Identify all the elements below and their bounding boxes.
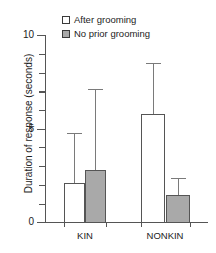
errorbar-stem-nonkin-after-grooming [153, 63, 154, 114]
errorbar-stem-nonkin-no-prior-grooming [178, 178, 179, 195]
y-tick-4 [39, 147, 45, 148]
x-tick-label-nonkin: NONKIN [147, 230, 184, 241]
legend-item-no-prior-grooming: No prior grooming [62, 27, 150, 40]
y-tick-1 [39, 204, 45, 205]
x-tick-kin-left [64, 222, 65, 227]
x-tick-nonkin-right [190, 222, 191, 227]
chart-legend: After grooming No prior grooming [62, 13, 150, 41]
errorbar-cap-kin-after-grooming [67, 133, 82, 134]
x-tick-label-kin: KIN [77, 230, 93, 241]
errorbar-cap-kin-no-prior-grooming [88, 89, 103, 90]
legend-label-no-prior-grooming: No prior grooming [74, 28, 150, 39]
bar-chart-figure: After grooming No prior grooming Duratio… [0, 0, 216, 253]
errorbar-stem-kin-no-prior-grooming [95, 89, 96, 169]
y-tick-9 [39, 54, 45, 55]
y-tick-label-5: 5 [8, 123, 34, 134]
y-axis-line [45, 35, 46, 223]
errorbar-cap-nonkin-no-prior-grooming [171, 178, 186, 179]
filled-square-icon [62, 30, 70, 38]
y-tick-8 [39, 73, 45, 74]
x-tick-nonkin-left [141, 222, 142, 227]
y-tick-3 [39, 166, 45, 167]
y-tick-7 [39, 91, 45, 92]
y-tick-0 [37, 222, 45, 223]
legend-item-after-grooming: After grooming [62, 13, 150, 26]
bar-nonkin-after-grooming [141, 114, 165, 224]
y-tick-label-10: 10 [8, 29, 34, 40]
bar-nonkin-no-prior-grooming [166, 195, 190, 223]
open-square-icon [62, 16, 70, 24]
errorbar-cap-nonkin-after-grooming [146, 63, 161, 64]
errorbar-stem-kin-after-grooming [74, 133, 75, 183]
y-tick-10 [37, 35, 45, 36]
x-tick-kin-right [106, 222, 107, 227]
bar-kin-after-grooming [64, 183, 85, 223]
bar-kin-no-prior-grooming [85, 170, 106, 223]
y-tick-5 [37, 129, 45, 130]
y-tick-2 [39, 185, 45, 186]
y-tick-6 [39, 110, 45, 111]
y-tick-label-0: 0 [8, 216, 34, 227]
legend-label-after-grooming: After grooming [74, 14, 136, 25]
